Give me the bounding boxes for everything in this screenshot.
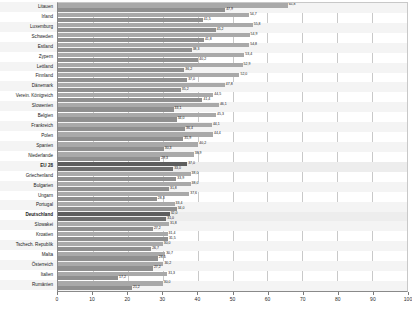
bar-value-label: 47,8 xyxy=(226,83,233,87)
bar-frauen xyxy=(58,103,219,107)
bar-value-label: 38,0 xyxy=(192,172,199,176)
bar-value-label: 33,1 xyxy=(175,107,182,111)
category-label: Schweden xyxy=(0,32,57,42)
category-label-text: Zypern xyxy=(0,52,53,62)
bar-row: 31,827,2 xyxy=(58,221,407,231)
category-label-text: Finnland xyxy=(0,71,53,81)
bar-value-label: 33,4 xyxy=(176,202,183,206)
bar-row: 47,835,2 xyxy=(58,82,407,92)
axis-tick-label: 50 xyxy=(230,296,236,302)
category-label: Portugal xyxy=(0,200,57,210)
category-label: Slowakei xyxy=(0,220,57,230)
bar-row: 30,227,2 xyxy=(58,261,407,271)
bar-männer xyxy=(58,8,225,12)
bar-value-label: 34,0 xyxy=(178,207,185,211)
bar-value-label: 41,5 xyxy=(204,18,211,22)
category-label: Luxemburg xyxy=(0,22,57,32)
bar-frauen xyxy=(58,281,163,285)
bar-frauen xyxy=(58,3,288,7)
bar-männer xyxy=(58,177,176,181)
category-label-text: Litauen xyxy=(0,2,53,12)
bar-row: 38,033,9 xyxy=(58,172,407,182)
category-label: Finnland xyxy=(0,71,57,81)
category-label-text: Malta xyxy=(0,250,53,260)
category-label: Lettland xyxy=(0,62,57,72)
bar-value-label: 53,4 xyxy=(245,53,252,57)
bar-männer xyxy=(58,256,158,260)
category-label-text: Österreich xyxy=(0,260,53,270)
category-label-text: EU 28 xyxy=(0,161,53,171)
category-label-text: Schweden xyxy=(0,32,53,42)
bar-value-label: 45,3 xyxy=(217,113,224,117)
bar-row: 44,435,9 xyxy=(58,132,407,142)
bar-value-label: 17,2 xyxy=(119,276,126,280)
bar-row: 54,838,3 xyxy=(58,43,407,53)
category-label: Irland xyxy=(0,12,57,22)
bar-frauen xyxy=(58,93,213,97)
axis-tick xyxy=(197,292,198,295)
bar-value-label: 55,8 xyxy=(254,23,261,27)
bar-frauen xyxy=(58,152,194,156)
axis-tick xyxy=(127,292,128,295)
category-label-text: Portugal xyxy=(0,200,53,210)
bar-row: 52,936,2 xyxy=(58,63,407,73)
category-label-text: Italien xyxy=(0,270,53,280)
axis-tick-label: 0 xyxy=(56,296,59,302)
axis-tick-label: 20 xyxy=(124,296,130,302)
bar-value-label: 54,8 xyxy=(250,43,257,47)
axis-tick xyxy=(92,292,93,295)
bar-frauen xyxy=(58,142,198,146)
category-label: Griechenland xyxy=(0,171,57,181)
axis-tick-label: 40 xyxy=(195,296,201,302)
category-label-text: Luxemburg xyxy=(0,22,53,32)
axis-tick-label: 70 xyxy=(300,296,306,302)
bar-value-label: 30,0 xyxy=(164,281,171,285)
bar-männer xyxy=(58,107,174,111)
bar-value-label: 45,2 xyxy=(217,28,224,32)
bar-row: 32,031,0 xyxy=(58,212,407,222)
category-label: Kroatien xyxy=(0,230,57,240)
bar-frauen xyxy=(58,262,163,266)
bar-männer xyxy=(58,48,192,52)
bar-row: 31,317,2 xyxy=(58,271,407,281)
bar-row: 37,033,0 xyxy=(58,162,407,172)
category-label: EU 28 xyxy=(0,161,57,171)
bar-value-label: 54,9 xyxy=(251,33,258,37)
bar-frauen xyxy=(58,33,250,37)
bar-row: 52,037,0 xyxy=(58,73,407,83)
bar-value-label: 30,0 xyxy=(164,242,171,246)
bar-row: 65,847,9 xyxy=(58,3,407,13)
category-label-text: Rumänien xyxy=(0,280,53,290)
bar-value-label: 46,1 xyxy=(220,103,227,107)
bar-value-label: 44,1 xyxy=(213,123,220,127)
bar-männer xyxy=(58,38,204,42)
category-label: Slowenien xyxy=(0,101,57,111)
bar-männer xyxy=(58,88,181,92)
bar-row: 54,741,5 xyxy=(58,13,407,23)
bar-männer xyxy=(58,266,153,270)
category-label: Malta xyxy=(0,250,57,260)
bar-frauen xyxy=(58,232,168,236)
bar-value-label: 37,0 xyxy=(188,162,195,166)
bar-row: 40,230,3 xyxy=(58,142,407,152)
bar-value-label: 30,2 xyxy=(164,262,171,266)
bar-männer xyxy=(58,217,166,221)
bar-frauen xyxy=(58,162,187,166)
bar-männer xyxy=(58,78,187,82)
bar-value-label: 41,4 xyxy=(203,98,210,102)
category-label: Bulgarien xyxy=(0,181,57,191)
bar-value-label: 31,4 xyxy=(169,232,176,236)
bar-männer xyxy=(58,147,164,151)
bar-value-label: 21,2 xyxy=(133,286,140,290)
bar-value-label: 52,0 xyxy=(240,73,247,77)
category-label: Ungarn xyxy=(0,191,57,201)
category-label-text: Estland xyxy=(0,42,53,52)
category-label-text: Polen xyxy=(0,131,53,141)
plot-area: 65,847,954,741,555,845,254,941,854,838,3… xyxy=(57,2,408,292)
category-label: Tschech. Republik xyxy=(0,240,57,250)
bar-value-label: 26,7 xyxy=(152,247,159,251)
axis-tick xyxy=(338,292,339,295)
category-label: Italien xyxy=(0,270,57,280)
bar-frauen xyxy=(58,192,189,196)
bar-value-label: 28,3 xyxy=(158,197,165,201)
